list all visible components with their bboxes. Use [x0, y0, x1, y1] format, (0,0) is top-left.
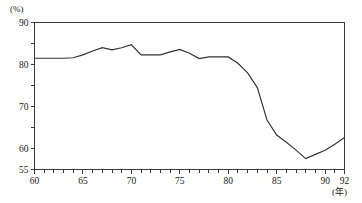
- x-tick-label: 92: [340, 176, 350, 186]
- x-tick-label: 80: [224, 176, 234, 186]
- y-tick-label: 60: [19, 144, 29, 154]
- chart-canvas: 5560708090 6065707580859092 (%) (年): [0, 0, 362, 203]
- data-series-line: [35, 45, 345, 159]
- plot-frame: [35, 23, 345, 170]
- x-tick-label: 85: [272, 176, 282, 186]
- x-tick-label: 60: [30, 176, 40, 186]
- y-tick-label: 55: [19, 165, 29, 175]
- y-axis-tick-labels: 5560708090: [19, 18, 29, 175]
- x-axis-tick-labels: 6065707580859092: [30, 176, 350, 186]
- x-tick-label: 75: [175, 176, 185, 186]
- x-axis-unit-label: (年): [332, 186, 347, 197]
- y-axis-unit-label: (%): [10, 4, 24, 14]
- y-axis-ticks: [31, 23, 35, 170]
- line-chart: 5560708090 6065707580859092 (%) (年): [0, 0, 362, 203]
- x-axis-ticks: [35, 170, 345, 175]
- x-tick-label: 70: [127, 176, 137, 186]
- y-tick-label: 70: [19, 102, 29, 112]
- y-tick-label: 90: [19, 18, 29, 28]
- y-tick-label: 80: [19, 60, 29, 70]
- x-tick-label: 65: [78, 176, 88, 186]
- x-tick-label: 90: [320, 176, 330, 186]
